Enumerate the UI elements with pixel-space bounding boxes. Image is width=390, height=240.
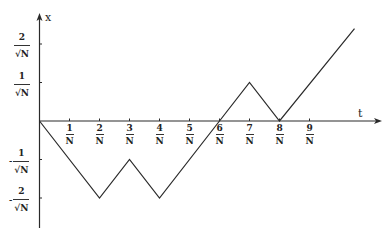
x-tick-label: 2√N — [14, 32, 30, 59]
x-tick-denominator: √N — [15, 88, 29, 98]
x-tick-numerator: 2 — [14, 32, 30, 46]
x-tick-numerator: 1 — [14, 71, 30, 85]
x-tick-numerator: 2 — [13, 186, 29, 200]
t-tick-label: 1N — [66, 123, 74, 146]
t-tick-label: 5N — [186, 123, 194, 146]
x-tick-label: 1√N — [14, 71, 30, 98]
axes — [40, 17, 379, 228]
path-line — [40, 29, 355, 198]
t-tick-label: 7N — [246, 123, 254, 146]
t-tick-denominator: N — [156, 134, 164, 146]
x-tick-label: -2√N — [9, 186, 29, 213]
t-tick-denominator: N — [276, 134, 284, 146]
x-tick-denominator: √N — [15, 49, 29, 59]
t-tick-numerator: 1 — [66, 123, 74, 134]
random-walk-chart — [0, 0, 390, 240]
y-axis-label: x — [45, 12, 51, 23]
t-tick-numerator: 3 — [126, 123, 134, 134]
t-tick-denominator: N — [126, 134, 134, 146]
t-tick-numerator: 6 — [216, 123, 224, 134]
x-tick-sign: - — [9, 195, 12, 205]
x-tick-sign: - — [9, 156, 12, 166]
t-tick-numerator: 2 — [96, 123, 104, 134]
t-tick-label: 4N — [156, 123, 164, 146]
x-tick-label: -1√N — [9, 148, 29, 175]
t-tick-numerator: 4 — [156, 123, 164, 134]
t-tick-label: 9N — [306, 123, 314, 146]
t-tick-denominator: N — [216, 134, 224, 146]
t-tick-numerator: 9 — [306, 123, 314, 134]
x-tick-numerator: 1 — [13, 148, 29, 162]
x-tick-denominator: √N — [14, 203, 28, 213]
t-tick-denominator: N — [66, 134, 74, 146]
t-tick-numerator: 8 — [276, 123, 284, 134]
t-axis-label: t — [358, 108, 362, 119]
t-tick-numerator: 5 — [186, 123, 194, 134]
t-tick-denominator: N — [186, 134, 194, 146]
t-tick-denominator: N — [306, 134, 314, 146]
t-tick-denominator: N — [96, 134, 104, 146]
t-tick-numerator: 7 — [246, 123, 254, 134]
x-tick-denominator: √N — [14, 165, 28, 175]
t-tick-label: 2N — [96, 123, 104, 146]
t-tick-denominator: N — [246, 134, 254, 146]
t-tick-label: 8N — [276, 123, 284, 146]
t-tick-label: 6N — [216, 123, 224, 146]
t-tick-label: 3N — [126, 123, 134, 146]
